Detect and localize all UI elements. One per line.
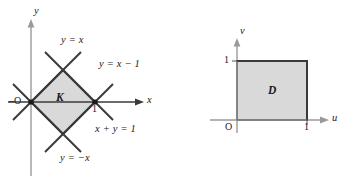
- y-axis-arrowhead: [28, 19, 35, 28]
- v-tick-label-one: 1: [224, 55, 229, 65]
- u-axis-arrowhead: [320, 116, 329, 123]
- v-axis-label: v: [240, 26, 245, 37]
- equation-label-y-equals-minus-x: y = −x: [60, 153, 90, 164]
- math-figure: y x O 1 K y = x y = x − 1 x + y = 1 y = …: [0, 0, 349, 185]
- origin-label: O: [14, 96, 21, 106]
- x-tick-label-one: 1: [92, 104, 97, 114]
- v-axis-arrowhead: [234, 38, 241, 47]
- y-axis-label: y: [34, 6, 39, 17]
- origin-label: O: [225, 122, 232, 132]
- x-axis-label: x: [147, 95, 152, 106]
- region-d-label: D: [268, 85, 276, 97]
- equation-label-y-equals-x: y = x: [61, 35, 84, 46]
- origin-point-marker: [28, 99, 33, 104]
- equation-label-x-plus-y-equals-1: x + y = 1: [95, 124, 136, 135]
- right-figure-graphic: [180, 0, 349, 185]
- right-figure-panel: v u O 1 1 D: [180, 0, 349, 185]
- u-axis-label: u: [332, 113, 337, 124]
- equation-label-y-equals-x-minus-1: y = x − 1: [99, 59, 140, 70]
- x-axis-arrowhead: [135, 98, 144, 105]
- region-k-label: K: [56, 92, 64, 104]
- left-figure-panel: y x O 1 K y = x y = x − 1 x + y = 1 y = …: [0, 0, 180, 185]
- left-figure-graphic: [0, 0, 180, 185]
- u-tick-label-one: 1: [304, 122, 309, 132]
